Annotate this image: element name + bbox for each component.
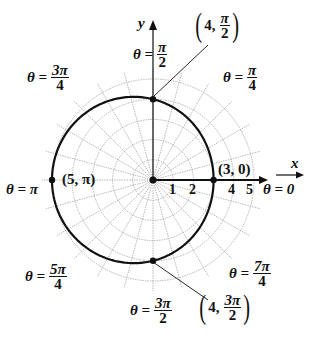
origin-marker: [150, 177, 157, 184]
axes: [149, 20, 304, 184]
angle-label-pi-4: θ = π4: [223, 63, 257, 92]
x-arrow-icon: [296, 172, 304, 179]
angle-label-pi-2: θ = π2: [133, 40, 167, 69]
angle-label-5pi-4: θ = 5π4: [25, 262, 67, 291]
angle-label-3pi-4: θ = 3π4: [27, 63, 69, 92]
angle-label-3pi-2: θ = 3π2: [130, 296, 172, 325]
angle-label-0: θ = 0: [263, 181, 294, 198]
tick-5: 5: [246, 182, 253, 198]
x-axis-label: x: [291, 155, 299, 172]
tick-1: 1: [169, 182, 176, 198]
y-arrow-icon: [149, 20, 157, 30]
point-label-4-pi-2: (4, π2): [193, 10, 241, 40]
point-label-3-0: (3, 0): [218, 161, 251, 178]
point-marker: [49, 177, 55, 183]
tick-2: 2: [189, 182, 196, 198]
point-label-4-3pi-2: (4, 3π2): [197, 292, 253, 322]
polar-graph: y x 1 2 4 5 θ = 0 θ = π4 θ = π2 θ = 3π4 …: [0, 0, 310, 344]
tick-4: 4: [228, 182, 235, 198]
angle-label-pi: θ = π: [6, 181, 38, 198]
y-axis-label: y: [138, 15, 145, 32]
point-label-5-pi: (5, π): [62, 171, 95, 188]
angle-label-7pi-4: θ = 7π4: [229, 259, 271, 288]
point-marker: [210, 177, 216, 183]
